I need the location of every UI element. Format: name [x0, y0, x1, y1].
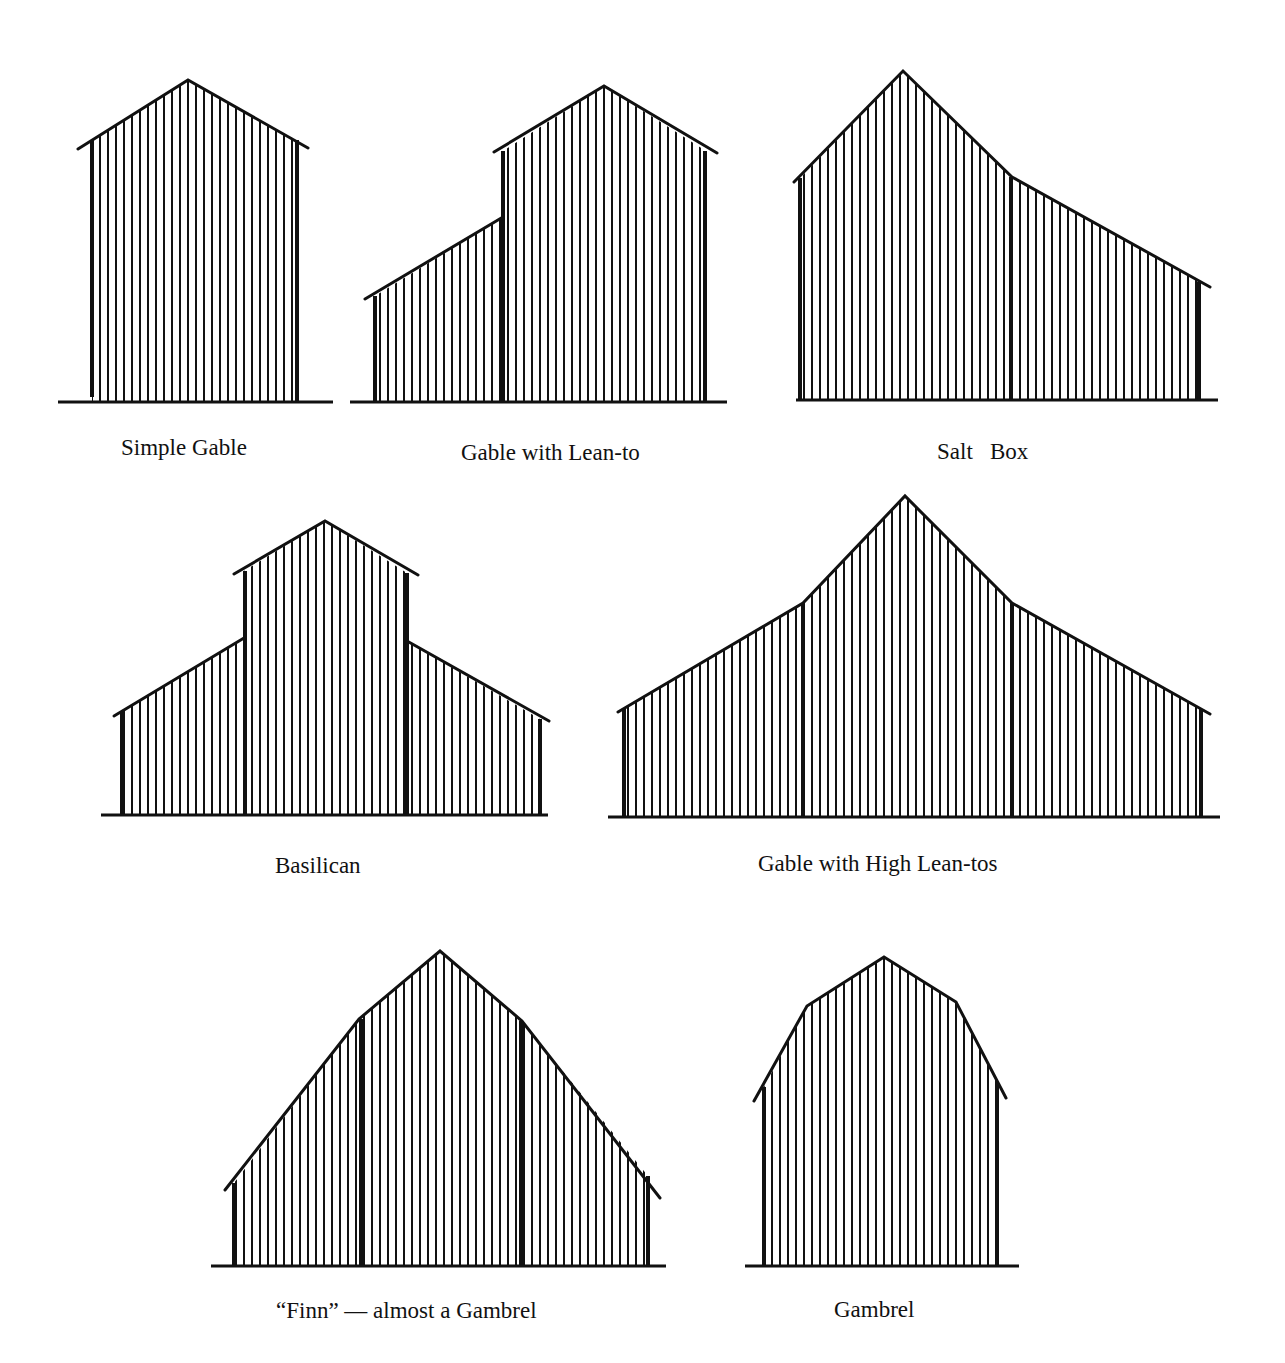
label-gambrel: Gambrel: [834, 1298, 914, 1321]
label-basilican: Basilican: [275, 854, 361, 877]
barn-finn-almost-gambrel: [211, 951, 666, 1266]
barn-wall-siding: [92, 80, 298, 402]
label-simple-gable: Simple Gable: [121, 436, 247, 459]
label-gable-with-lean-to: Gable with Lean-to: [461, 441, 640, 464]
label-finn-almost-gambrel: “Finn” — almost a Gambrel: [276, 1299, 537, 1322]
barn-simple-gable: [58, 80, 333, 402]
diagram-canvas: [0, 0, 1285, 1363]
label-salt-box: Salt Box: [937, 440, 1028, 463]
barn-gable-with-high-lean-tos: [608, 496, 1220, 817]
barn-wall-siding: [122, 521, 540, 815]
barn-wall-siding: [375, 86, 706, 402]
barn-wall-siding: [234, 951, 648, 1266]
barn-gambrel: [745, 957, 1019, 1266]
barn-basilican: [101, 521, 549, 815]
barn-wall-siding: [764, 957, 998, 1266]
barn-gable-with-lean-to: [350, 86, 727, 402]
barn-wall-siding: [800, 71, 1200, 400]
label-gable-with-high-lean-tos: Gable with High Lean-tos: [758, 852, 998, 875]
barn-salt-box: [794, 71, 1218, 400]
